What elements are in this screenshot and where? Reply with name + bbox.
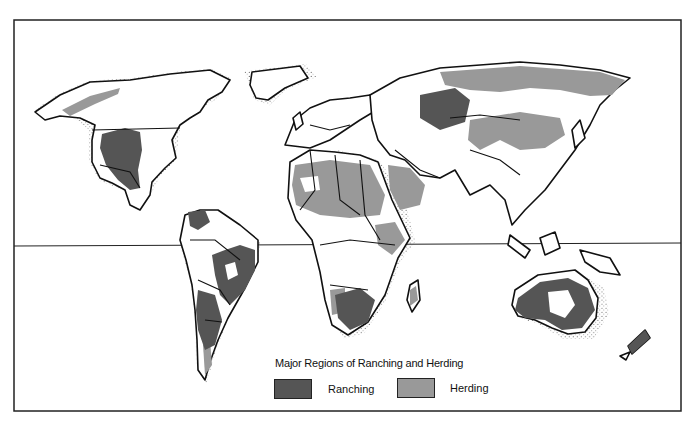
legend-label-ranching: Ranching <box>328 383 374 395</box>
legend-title: Major Regions of Ranching and Herding <box>275 357 463 369</box>
legend-label-herding: Herding <box>450 382 489 394</box>
legend-swatch-herding <box>397 378 435 398</box>
legend-swatch-ranching <box>274 379 312 399</box>
